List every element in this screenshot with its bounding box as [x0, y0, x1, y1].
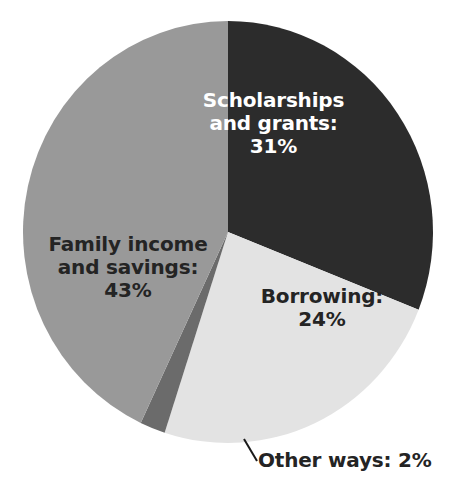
pie-label-scholarships-and-grants: Scholarships and grants: 31% [196, 89, 351, 159]
pie-label-value: 43% [42, 279, 214, 302]
pie-chart: Scholarships and grants: 31% Family inco… [0, 0, 452, 492]
pie-label-line1: Scholarships [203, 88, 344, 112]
pie-label-line1: Other ways: 2% [258, 448, 432, 472]
pie-label-other-ways: Other ways: 2% [258, 449, 448, 472]
pie-label-line2: and savings: [42, 256, 214, 279]
other-ways-leader-line [244, 439, 257, 461]
pie-label-value: 31% [196, 135, 351, 158]
pie-label-borrowing: Borrowing: 24% [254, 285, 390, 331]
pie-label-line1: Borrowing: [261, 284, 383, 308]
pie-label-line2: and grants: [196, 112, 351, 135]
pie-label-line1: Family income [48, 232, 207, 256]
pie-label-family-income-and-savings: Family income and savings: 43% [42, 233, 214, 303]
pie-label-value: 24% [254, 308, 390, 331]
